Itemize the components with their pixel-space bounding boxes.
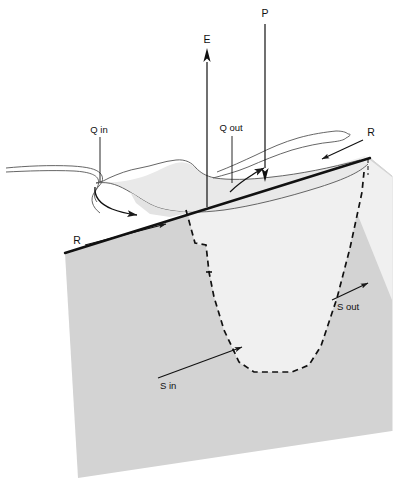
label-seepage-out: S out	[337, 301, 360, 312]
label-seepage-in: S in	[160, 380, 176, 391]
label-outflow: Q out	[219, 122, 243, 133]
label-evaporation: E	[203, 33, 210, 45]
block-diagram-svg: E P Q in Q out R R S in S out	[0, 0, 398, 497]
label-runoff-right: R	[367, 126, 375, 138]
label-inflow: Q in	[90, 124, 107, 135]
precipitation-arrow[interactable]	[261, 24, 268, 182]
label-runoff-left: R	[73, 234, 81, 246]
label-precipitation: P	[261, 7, 268, 19]
inflow-river	[6, 166, 103, 213]
water-balance-figure: E P Q in Q out R R S in S out	[0, 0, 398, 497]
